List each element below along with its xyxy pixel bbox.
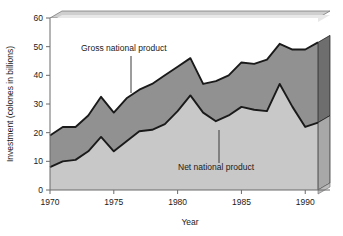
- x-axis-title: Year: [181, 217, 198, 227]
- side-face-dark: [318, 116, 330, 190]
- y-tick-label: 20: [34, 128, 44, 138]
- chart-figure: 0102030405060 19701975198019851990 Inves…: [0, 0, 343, 236]
- y-tick-label: 30: [34, 99, 44, 109]
- y-tick-label: 40: [34, 70, 44, 80]
- series-annotation-label: Gross national product: [81, 43, 167, 53]
- y-tick-label: 60: [34, 13, 44, 23]
- y-axis-title: Investment (colones in billions): [5, 46, 15, 162]
- x-tick-label: 1990: [296, 197, 315, 207]
- y-tick-label: 50: [34, 42, 44, 52]
- area-chart: 0102030405060 19701975198019851990 Inves…: [0, 0, 343, 236]
- y-tick-label: 10: [34, 156, 44, 166]
- side-face-light: [318, 35, 330, 122]
- x-tick-label: 1985: [232, 197, 251, 207]
- x-tick-label: 1970: [41, 197, 60, 207]
- plot-right-side-panel: [318, 35, 330, 194]
- y-tick-label: 0: [38, 185, 43, 195]
- x-tick-label: 1975: [104, 197, 123, 207]
- series-annotation-label: Net national product: [178, 162, 255, 172]
- x-tick-label: 1980: [168, 197, 187, 207]
